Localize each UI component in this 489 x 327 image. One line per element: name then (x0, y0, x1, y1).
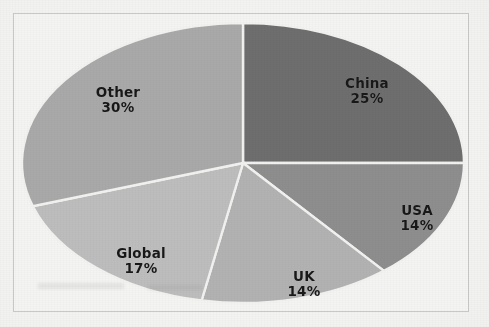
pie-label-usa-name: USA (385, 203, 449, 218)
pie-label-other-value: 30% (79, 100, 157, 115)
pie-label-usa-value: 14% (385, 218, 449, 233)
pie-label-global-name: Global (99, 246, 183, 261)
pie-label-global: Global 17% (99, 246, 183, 276)
pie-label-uk: UK 14% (272, 269, 336, 299)
chart-page: China 25% USA 14% UK 14% Global 17% Othe… (0, 0, 489, 327)
pie-label-other: Other 30% (79, 85, 157, 115)
pie-slices (22, 23, 464, 303)
pie-label-usa: USA 14% (385, 203, 449, 233)
pie-label-china-value: 25% (329, 91, 405, 106)
pie-label-other-name: Other (79, 85, 157, 100)
pie-chart: China 25% USA 14% UK 14% Global 17% Othe… (13, 13, 469, 312)
pie-label-uk-name: UK (272, 269, 336, 284)
pie-label-china-name: China (329, 76, 405, 91)
pie-label-uk-value: 14% (272, 284, 336, 299)
pie-chart-svg (13, 13, 469, 312)
pie-label-global-value: 17% (99, 261, 183, 276)
pie-label-china: China 25% (329, 76, 405, 106)
